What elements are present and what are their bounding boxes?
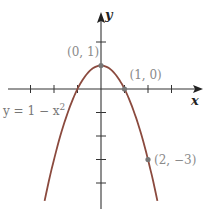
x-axis-label: x (190, 93, 199, 108)
point-marker (98, 63, 103, 68)
parabola-plot: (0, 1)(1, 0)(2, −3) y x y = 1 − x2 (0, 0, 204, 214)
point-label: (2, −3) (154, 153, 196, 167)
point-label: (0, 1) (67, 45, 99, 59)
point-marker (145, 157, 150, 162)
chart: (0, 1)(1, 0)(2, −3) y x y = 1 − x2 (0, 0, 204, 214)
point-label: (1, 0) (130, 68, 162, 82)
y-axis-label: y (104, 7, 114, 22)
equation-label: y = 1 − x2 (2, 102, 65, 118)
point-marker (122, 86, 127, 91)
